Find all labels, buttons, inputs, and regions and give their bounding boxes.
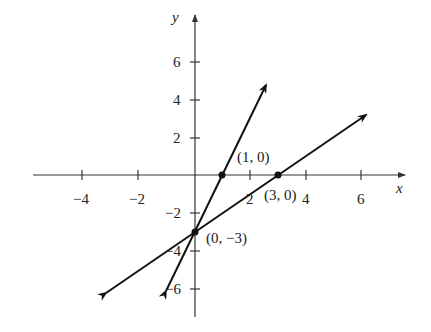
x-axis-label: x: [395, 180, 403, 196]
point-label-1-0: (1, 0): [237, 149, 270, 166]
y-tick-label: −2: [165, 205, 181, 221]
x-tick-label: −2: [129, 191, 145, 207]
point-0-neg3: [192, 229, 199, 236]
y-axis-label: y: [170, 9, 179, 25]
shallow-line: [106, 115, 366, 293]
x-tick-label: 4: [302, 191, 310, 207]
steep-line: [166, 85, 266, 291]
y-tick-label: 4: [173, 92, 181, 108]
x-tick-label: −4: [73, 191, 89, 207]
point-label-3-0: (3, 0): [264, 187, 297, 204]
coordinate-plane: y x −4 −2 2 4 6 6 4 2 −2 −4 −6 (1, 0) (3…: [0, 0, 431, 332]
y-tick-label: −6: [165, 281, 181, 297]
y-tick-label: 6: [173, 54, 181, 70]
point-1-0: [219, 172, 226, 179]
x-tick-label: 2: [246, 191, 254, 207]
point-3-0: [275, 172, 282, 179]
y-tick-label: 2: [173, 130, 181, 146]
y-tick-label: −4: [165, 243, 181, 259]
y-axis: [190, 15, 200, 317]
x-tick-label: 6: [357, 191, 365, 207]
point-label-0-neg3: (0, −3): [206, 230, 247, 247]
